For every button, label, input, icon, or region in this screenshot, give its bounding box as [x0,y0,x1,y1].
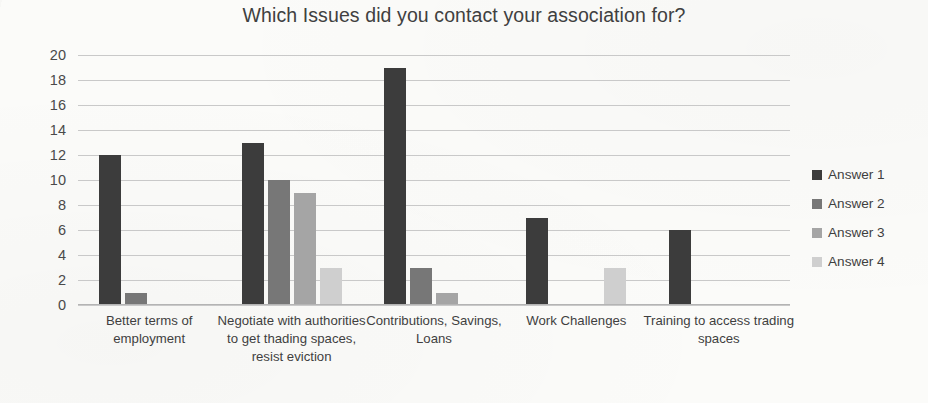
bar-slot [382,55,408,305]
bar-slot [524,55,550,305]
bar[interactable] [526,218,548,306]
legend-item[interactable]: Answer 3 [812,218,885,247]
bars-layer [78,55,790,305]
x-axis-category-label: Negotiate with authorities to get thadin… [214,312,368,366]
x-axis-line [78,304,790,305]
bar-group [648,55,790,305]
bar[interactable] [294,193,316,306]
chart-title: Which Issues did you contact your associ… [0,4,928,27]
bar[interactable] [99,155,121,305]
legend-item[interactable]: Answer 4 [812,247,885,276]
gridline [78,305,790,306]
x-axis-category-label: Better terms of employment [72,312,226,348]
legend-item-label: Answer 3 [828,225,885,240]
bar-slot [266,55,292,305]
legend-item-label: Answer 4 [828,254,885,269]
y-axis-tick-label: 12 [50,147,66,163]
bar-slot [693,55,719,305]
bar-slot [434,55,460,305]
legend-item[interactable]: Answer 2 [812,189,885,218]
bar-slot [745,55,771,305]
bar-slot [123,55,149,305]
y-axis-tick-label: 10 [50,172,66,188]
bar[interactable] [242,143,264,306]
legend-item-label: Answer 1 [828,167,885,182]
x-axis-category-label: Contributions, Savings, Loans [357,312,511,348]
y-axis-tick-label: 4 [58,247,66,263]
x-axis-category-label: Work Challenges [499,312,653,330]
bar-slot [576,55,602,305]
bar[interactable] [669,230,691,305]
bar-slot [292,55,318,305]
bar-slot [318,55,344,305]
y-axis-tick-label: 0 [58,297,66,313]
bar-slot [550,55,576,305]
y-axis-tick-label: 18 [50,72,66,88]
bar-group [363,55,505,305]
legend-swatch-icon [812,199,822,209]
x-axis-category-label: Training to access trading spaces [642,312,796,348]
legend-swatch-icon [812,257,822,267]
chart-legend: Answer 1Answer 2Answer 3Answer 4 [812,160,885,276]
bar-slot [175,55,201,305]
y-axis-tick-label: 8 [58,197,66,213]
bar-group [78,55,220,305]
bar-slot [602,55,628,305]
y-axis-tick-label: 16 [50,97,66,113]
bar-slot [460,55,486,305]
y-axis-tick-label: 14 [50,122,66,138]
y-axis-tick-label: 20 [50,47,66,63]
y-axis-tick-label: 6 [58,222,66,238]
bar-slot [97,55,123,305]
bar[interactable] [604,268,626,306]
bar-slot [408,55,434,305]
plot-area: 20181614121086420 [78,55,790,305]
bar[interactable] [320,268,342,306]
bar-slot [719,55,745,305]
bar-slot [240,55,266,305]
y-axis-tick-label: 2 [58,272,66,288]
legend-swatch-icon [812,228,822,238]
bar-group [220,55,362,305]
legend-item-label: Answer 2 [828,196,885,211]
bar[interactable] [384,68,406,306]
bar-slot [667,55,693,305]
bar-group [505,55,647,305]
bar[interactable] [268,180,290,305]
bar[interactable] [410,268,432,306]
bar-slot [149,55,175,305]
bar-chart: Which Issues did you contact your associ… [0,0,928,403]
legend-swatch-icon [812,170,822,180]
legend-item[interactable]: Answer 1 [812,160,885,189]
